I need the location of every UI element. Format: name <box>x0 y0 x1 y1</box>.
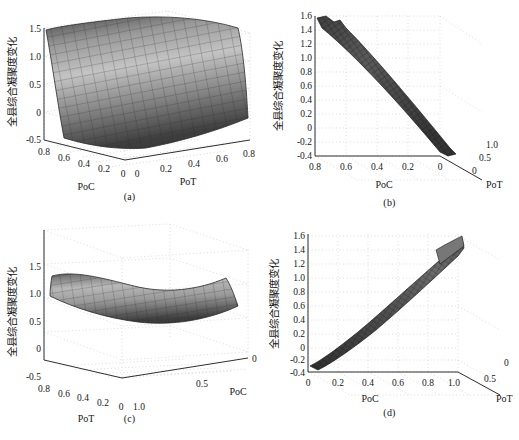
y-tick: 0.5 <box>479 153 491 163</box>
x-tick: 0.8 <box>309 162 321 172</box>
x-ticks-c: 0.8 0.6 0.4 0.2 0 <box>38 384 124 412</box>
z-axis-label-a: 全县综合凝聚度变化 <box>6 36 18 127</box>
y-tick: 0.2 <box>160 164 172 174</box>
panel-caption-d: (d) <box>260 407 519 418</box>
x-tick: 0 <box>121 169 126 179</box>
z-tick: 1.0 <box>29 289 41 299</box>
z-tick: -0.4 <box>290 368 305 378</box>
x-tick: 0.8 <box>38 384 50 394</box>
z-tick: 1.2 <box>300 39 312 49</box>
panel-c-plot: 1.5 1.0 0.5 0 -0.5 0.8 0.6 0.4 0.2 0 0 0… <box>0 220 259 440</box>
x-tick: 0.4 <box>77 393 89 403</box>
z-tick: 1.4 <box>300 25 312 35</box>
z-ticks-d: 1.6 1.4 1.2 1.0 0.8 0.6 0.4 0.2 0 -0.2 -… <box>290 231 305 378</box>
surface-a <box>46 17 248 149</box>
z-tick: 0 <box>36 344 41 354</box>
z-tick: 0 <box>300 343 305 353</box>
y-ticks-a: 0 0.2 0.4 0.6 0.8 <box>135 149 256 179</box>
z-tick: 1.4 <box>293 245 305 255</box>
z-tick: 1.5 <box>29 24 41 34</box>
z-tick: 1.6 <box>300 11 312 21</box>
z-tick: 1.0 <box>293 273 305 283</box>
panel-c: 1.5 1.0 0.5 0 -0.5 0.8 0.6 0.4 0.2 0 0 0… <box>0 220 259 440</box>
x-tick: 0.6 <box>340 162 352 172</box>
z-tick: 1.0 <box>29 52 41 62</box>
x-ticks-a: 0.8 0.6 0.4 0.2 0 <box>38 147 126 179</box>
y-tick: 0 <box>472 166 477 176</box>
panel-b-plot: 1.6 1.4 1.2 1.0 0.8 0.6 0.4 0.2 0 -0.2 -… <box>260 0 519 220</box>
x-tick: 0.6 <box>392 378 404 388</box>
z-tick: 0.5 <box>29 317 41 327</box>
z-tick: 0.6 <box>293 301 305 311</box>
y-tick: 1.0 <box>133 402 145 412</box>
z-axis-label-b: 全县综合凝聚度变化 <box>272 40 284 131</box>
surface-b <box>317 16 456 156</box>
panel-caption-a: (a) <box>0 191 259 202</box>
panel-d: 1.6 1.4 1.2 1.0 0.8 0.6 0.4 0.2 0 -0.2 -… <box>260 220 519 440</box>
y-ticks-c: 0 0.5 1.0 <box>133 354 257 412</box>
surface-c <box>50 274 238 323</box>
z-tick: 0 <box>307 123 312 133</box>
y-tick: 0.5 <box>196 379 208 389</box>
x-tick: 0.2 <box>98 164 110 174</box>
z-ticks-c: 1.5 1.0 0.5 0 -0.5 <box>26 262 41 382</box>
z-tick: -0.4 <box>297 151 312 161</box>
x-tick: 0 <box>438 162 443 172</box>
y-axis-label-c: PoC <box>229 386 247 397</box>
x-ticks-d: 0 0.2 0.4 0.6 0.8 1.0 <box>306 378 461 388</box>
y-ticks-b: 1.0 0.5 0 <box>472 140 498 176</box>
z-tick: -0.2 <box>290 355 305 365</box>
z-tick: -0.5 <box>26 372 41 382</box>
x-tick: 1.0 <box>448 378 460 388</box>
z-tick: 0.4 <box>293 315 305 325</box>
x-tick: 0.2 <box>402 162 414 172</box>
panel-a-plot: 1.5 1.0 0.5 0 -0.5 0.8 0.6 0.4 0.2 0 0 0… <box>0 0 259 220</box>
y-axis-label-b: PoT <box>486 179 503 190</box>
axis-lines-d <box>308 234 500 395</box>
z-tick: 0.6 <box>300 81 312 91</box>
z-axis-label-d: 全县综合凝聚度变化 <box>268 258 280 349</box>
y-tick: 0 <box>504 358 509 368</box>
x-tick: 0.4 <box>362 378 374 388</box>
x-tick: 0 <box>306 378 311 388</box>
y-axis-label-a: PoT <box>180 176 197 187</box>
x-tick: 0.6 <box>58 153 70 163</box>
z-tick: 0 <box>36 108 41 118</box>
x-axis-label-d: PoC <box>361 393 379 404</box>
x-tick: 0 <box>119 402 124 412</box>
z-ticks-b: 1.6 1.4 1.2 1.0 0.8 0.6 0.4 0.2 0 -0.2 -… <box>297 11 312 161</box>
surface-d <box>310 236 464 370</box>
y-tick: 0.4 <box>188 159 200 169</box>
panel-caption-b: (b) <box>260 197 519 208</box>
y-tick: 0 <box>252 354 257 364</box>
figure-canvas: 1.5 1.0 0.5 0 -0.5 0.8 0.6 0.4 0.2 0 0 0… <box>0 0 519 440</box>
grid-lines-d <box>308 234 500 395</box>
z-tick: 0.5 <box>29 80 41 90</box>
y-tick: 0.8 <box>243 149 255 159</box>
z-tick: -0.5 <box>26 135 41 145</box>
x-tick: 0.6 <box>58 389 70 399</box>
z-tick: 0.2 <box>293 329 305 339</box>
z-tick: 1.6 <box>293 231 305 241</box>
y-tick: 0 <box>135 169 140 179</box>
z-ticks-a: 1.5 1.0 0.5 0 -0.5 <box>26 24 41 145</box>
x-tick: 0.8 <box>422 378 434 388</box>
x-ticks-b: 0.8 0.6 0.4 0.2 0 <box>309 162 443 172</box>
y-tick: 1.0 <box>486 140 498 150</box>
x-axis-label-b: PoC <box>375 179 393 190</box>
panel-caption-c: (c) <box>0 413 259 424</box>
z-tick: 0.8 <box>293 287 305 297</box>
x-tick: 0.4 <box>371 162 383 172</box>
z-tick: -0.2 <box>297 137 312 147</box>
y-axis-label-d: PoT <box>496 393 513 404</box>
x-tick: 0.8 <box>38 147 50 157</box>
z-tick: 1.0 <box>300 53 312 63</box>
x-tick: 0.4 <box>78 159 90 169</box>
panel-a: 1.5 1.0 0.5 0 -0.5 0.8 0.6 0.4 0.2 0 0 0… <box>0 0 259 220</box>
panel-b: 1.6 1.4 1.2 1.0 0.8 0.6 0.4 0.2 0 -0.2 -… <box>260 0 519 220</box>
z-tick: 0.2 <box>300 109 312 119</box>
z-tick: 1.5 <box>29 262 41 272</box>
x-tick: 0.2 <box>332 378 344 388</box>
y-tick: 0.6 <box>216 154 228 164</box>
z-tick: 0.8 <box>300 67 312 77</box>
